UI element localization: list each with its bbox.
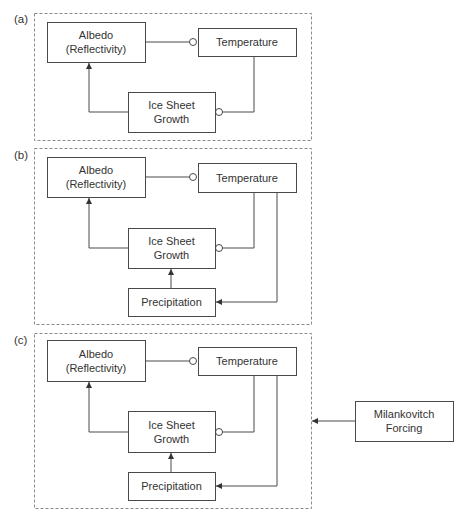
ice-label-line: Growth bbox=[154, 249, 189, 261]
temperature-node: Temperature bbox=[199, 164, 297, 193]
milankovitch-label-line: Forcing bbox=[386, 422, 423, 434]
ice-node: Ice SheetGrowth bbox=[129, 229, 216, 269]
panel-label: (a) bbox=[14, 13, 28, 25]
ice-albedo-feedback-diagram: (a)Albedo(Reflectivity)TemperatureIce Sh… bbox=[0, 0, 465, 524]
milankovitch-label-line: Milankovitch bbox=[374, 408, 435, 420]
positive-feedback-arrowhead-icon bbox=[312, 418, 318, 424]
albedo-to-temperature-negative-link bbox=[145, 358, 197, 365]
temperature-to-ice-negative-link bbox=[216, 56, 255, 116]
positive-feedback-arrowhead-icon bbox=[168, 453, 174, 459]
panels-layer: (a)Albedo(Reflectivity)TemperatureIce Sh… bbox=[14, 13, 312, 509]
ice-node: Ice SheetGrowth bbox=[129, 412, 216, 453]
albedo-label-line: Albedo bbox=[79, 29, 113, 41]
connector-line bbox=[89, 63, 128, 112]
negative-feedback-circle-icon bbox=[190, 174, 197, 181]
panel-label: (b) bbox=[14, 149, 28, 161]
precipitation-to-ice-positive-link bbox=[168, 453, 174, 472]
albedo-to-temperature-negative-link bbox=[145, 39, 197, 46]
connector-line bbox=[216, 375, 277, 486]
ice-node: Ice SheetGrowth bbox=[129, 93, 216, 133]
temperature-label-line: Temperature bbox=[216, 355, 278, 367]
negative-feedback-circle-icon bbox=[216, 109, 223, 116]
albedo-to-temperature-negative-link bbox=[145, 174, 197, 181]
panel-label: (c) bbox=[14, 334, 28, 346]
albedo-label-line: Albedo bbox=[79, 348, 113, 360]
temperature-to-ice-negative-link bbox=[216, 375, 255, 436]
temperature-to-ice-negative-link bbox=[216, 192, 255, 252]
connector-line bbox=[89, 198, 128, 248]
precipitation-node: Precipitation bbox=[129, 473, 216, 501]
albedo-node: Albedo(Reflectivity) bbox=[48, 341, 146, 382]
temperature-node: Temperature bbox=[199, 29, 297, 57]
precipitation-node: Precipitation bbox=[129, 289, 216, 317]
positive-feedback-arrowhead-icon bbox=[86, 382, 92, 388]
milankovitch-node: MilankovitchForcing bbox=[356, 402, 454, 442]
milankovitch-to-panel-c-positive-link bbox=[312, 418, 355, 424]
ice-label-line: Ice Sheet bbox=[148, 419, 194, 431]
precipitation-label-line: Precipitation bbox=[141, 480, 202, 492]
panel-b: (b)Albedo(Reflectivity)TemperatureIce Sh… bbox=[14, 149, 312, 325]
ice-label-line: Ice Sheet bbox=[148, 99, 194, 111]
temperature-node: Temperature bbox=[199, 348, 297, 376]
albedo-label-line: (Reflectivity) bbox=[66, 178, 127, 190]
ice-to-albedo-positive-link bbox=[86, 63, 128, 112]
negative-feedback-circle-icon bbox=[216, 429, 223, 436]
precipitation-label-line: Precipitation bbox=[141, 296, 202, 308]
external-forcing-layer: MilankovitchForcing bbox=[312, 402, 454, 442]
precipitation-to-ice-positive-link bbox=[168, 269, 174, 288]
positive-feedback-arrowhead-icon bbox=[86, 63, 92, 69]
albedo-node: Albedo(Reflectivity) bbox=[48, 158, 146, 198]
negative-feedback-circle-icon bbox=[190, 39, 197, 46]
connector-line bbox=[219, 192, 254, 248]
ice-to-albedo-positive-link bbox=[86, 198, 128, 248]
temperature-label-line: Temperature bbox=[216, 172, 278, 184]
connector-line bbox=[219, 56, 254, 112]
ice-label-line: Ice Sheet bbox=[148, 235, 194, 247]
ice-to-albedo-positive-link bbox=[86, 382, 128, 432]
panel-c: (c)Albedo(Reflectivity)TemperatureIce Sh… bbox=[14, 334, 312, 509]
albedo-label-line: Albedo bbox=[79, 164, 113, 176]
positive-feedback-arrowhead-icon bbox=[86, 198, 92, 204]
albedo-label-line: (Reflectivity) bbox=[66, 43, 127, 55]
positive-feedback-arrowhead-icon bbox=[168, 269, 174, 275]
positive-feedback-arrowhead-icon bbox=[216, 299, 222, 305]
ice-label-line: Growth bbox=[154, 113, 189, 125]
connector-line bbox=[216, 192, 277, 302]
albedo-label-line: (Reflectivity) bbox=[66, 362, 127, 374]
temperature-label-line: Temperature bbox=[216, 36, 278, 48]
panel-a: (a)Albedo(Reflectivity)TemperatureIce Sh… bbox=[14, 13, 312, 141]
ice-label-line: Growth bbox=[154, 433, 189, 445]
connector-line bbox=[89, 382, 128, 432]
connector-line bbox=[219, 375, 254, 432]
positive-feedback-arrowhead-icon bbox=[216, 483, 222, 489]
albedo-node: Albedo(Reflectivity) bbox=[48, 23, 146, 63]
negative-feedback-circle-icon bbox=[216, 245, 223, 252]
negative-feedback-circle-icon bbox=[190, 358, 197, 365]
